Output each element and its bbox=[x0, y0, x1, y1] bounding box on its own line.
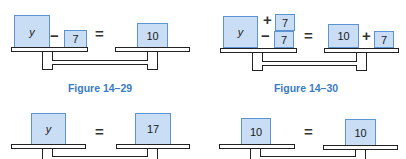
crossbar bbox=[260, 156, 356, 159]
variable-block-y: y bbox=[14, 15, 50, 48]
figure-caption-14-30: Figure 14–30 bbox=[274, 82, 338, 94]
equals-sign: = bbox=[304, 124, 313, 139]
right-post bbox=[355, 149, 366, 159]
right-post bbox=[147, 51, 158, 70]
number-block-7: 7 bbox=[64, 30, 87, 48]
plus-sign: + bbox=[362, 28, 371, 43]
minus-sign: − bbox=[50, 28, 59, 43]
minus-sign: − bbox=[261, 28, 270, 43]
number-block-17: 17 bbox=[135, 113, 171, 145]
number-block-7: 7 bbox=[274, 31, 294, 48]
right-post bbox=[147, 148, 158, 159]
crossbar bbox=[52, 60, 148, 65]
crossbar bbox=[52, 156, 148, 159]
number-block-7-added: 7 bbox=[374, 31, 394, 48]
equals-sign: = bbox=[95, 26, 104, 41]
equals-sign: = bbox=[95, 124, 104, 139]
number-block-10-left: 10 bbox=[241, 118, 271, 145]
variable-block-y: y bbox=[223, 16, 258, 48]
number-block-10: 10 bbox=[328, 24, 359, 48]
number-block-7-added: 7 bbox=[275, 14, 295, 31]
right-post bbox=[356, 52, 367, 71]
plus-sign: + bbox=[263, 12, 272, 27]
number-block-10-right: 10 bbox=[345, 119, 376, 146]
figure-caption-14-29: Figure 14–29 bbox=[68, 82, 132, 94]
equals-sign: = bbox=[304, 28, 313, 43]
crossbar bbox=[262, 61, 357, 66]
number-block-10: 10 bbox=[137, 23, 168, 48]
variable-block-y: y bbox=[31, 113, 66, 145]
